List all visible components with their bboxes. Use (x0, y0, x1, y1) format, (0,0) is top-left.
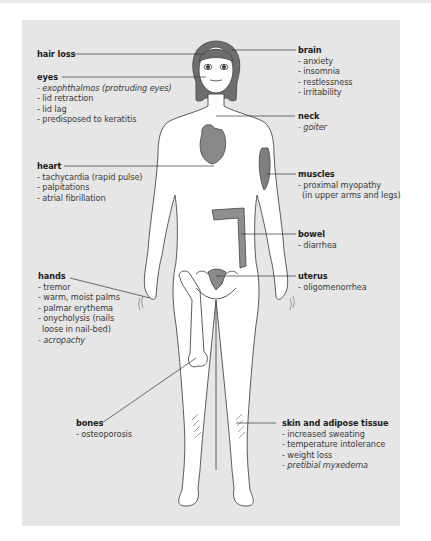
label-neck: neck - goiter (298, 111, 327, 132)
label-uterus: uterus - oligomenorrhea (298, 271, 367, 292)
label-muscles: muscles - proximal myopathy (in upper ar… (298, 169, 401, 201)
label-bones: bones - osteoporosis (76, 418, 132, 439)
label-hair-loss: hair loss (37, 49, 75, 60)
label-skin-adipose: skin and adipose tissue - increased swea… (282, 418, 388, 471)
label-brain: brain - anxiety - insomnia - restlessnes… (298, 45, 352, 98)
label-bowel: bowel - diarrhea (298, 229, 337, 250)
label-heart: heart - tachycardia (rapid pulse) - palp… (37, 161, 142, 203)
label-eyes: eyes - exophthalmos (protruding eyes) - … (37, 72, 172, 125)
label-hands: hands - tremor - warm, moist palms - pal… (38, 271, 120, 345)
